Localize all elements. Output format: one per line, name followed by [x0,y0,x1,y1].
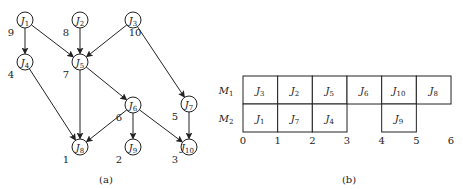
gantt-cell-J1: J1 [243,104,278,132]
edge-J3-J5 [87,25,127,57]
figure-canvas: J19J28J310J44J57J66J75J81J92J103 (a) M1J… [0,0,463,189]
node-weight: 3 [172,154,178,165]
gantt-cell-J7: J7 [278,104,313,132]
node-weight: 2 [116,154,122,165]
graph-nodes: J19J28J310J44J57J66J75J81J92J103 [8,12,197,165]
node-J7: J75 [172,96,197,122]
node-J2: J28 [63,12,88,38]
node-J3: J310 [125,12,141,38]
tick-6: 6 [448,135,454,146]
node-weight: 5 [172,111,178,122]
gantt-rows: M1J3J2J5J6J10J8M2J1J7J4J9 [218,76,451,132]
caption-b: (b) [342,174,356,185]
gantt-cell-J2: J2 [278,76,313,104]
node-J6: J66 [116,97,141,123]
node-J5: J57 [63,54,88,80]
gantt-cell-J6: J6 [347,76,382,104]
node-J8: J81 [63,139,88,165]
gantt-cell-J9: J9 [382,104,417,132]
graph-edges [25,25,189,142]
tick-3: 3 [344,135,350,146]
node-weight: 10 [129,27,142,38]
node-weight: 8 [63,27,69,38]
gantt-chart: M1J3J2J5J6J10J8M2J1J7J4J9 0123456 (b) [218,76,455,185]
gantt-cell-J8: J8 [416,76,451,104]
machine-row-M1: M1J3J2J5J6J10J8 [218,76,451,104]
node-weight: 4 [8,69,14,80]
tick-2: 2 [309,135,315,146]
node-weight: 9 [8,27,14,38]
tick-0: 0 [240,135,246,146]
node-weight: 6 [116,112,122,123]
precedence-graph: J19J28J310J44J57J66J75J81J92J103 (a) [8,12,197,185]
machine-label: M1 [218,85,234,98]
machine-label: M2 [218,113,234,126]
tick-1: 1 [274,135,280,146]
tick-5: 5 [413,135,419,146]
node-J1: J19 [8,12,33,38]
gantt-cell-J3: J3 [243,76,278,104]
caption-a: (a) [99,174,113,185]
edge-J5-J6 [86,67,126,100]
time-axis-ticks: 0123456 [240,135,454,146]
node-weight: 1 [63,154,69,165]
node-J10: J103 [172,139,197,165]
node-J4: J44 [8,54,33,80]
node-J9: J92 [116,139,141,165]
node-weight: 7 [63,69,69,80]
edge-J3-J7 [137,27,184,97]
gantt-cell-J5: J5 [312,76,347,104]
gantt-cell-J10: J10 [382,76,417,104]
machine-row-M2: M2J1J7J4J9 [218,104,417,132]
tick-4: 4 [378,135,384,146]
gantt-cell-J4: J4 [312,104,347,132]
